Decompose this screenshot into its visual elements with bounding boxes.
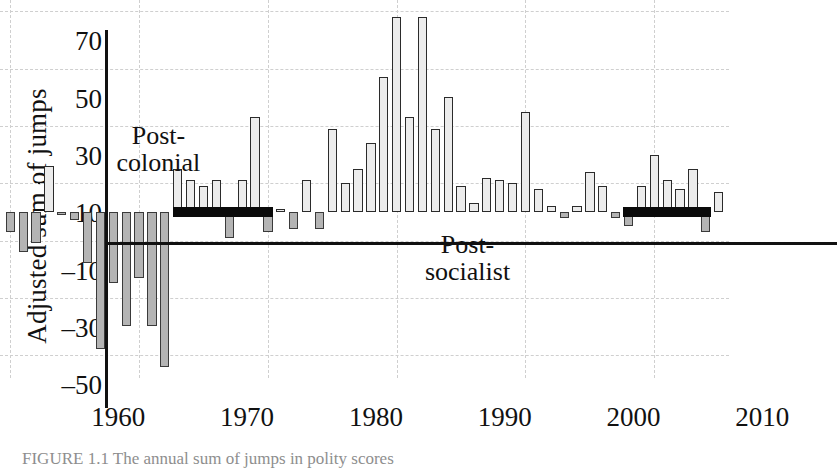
bar-2005 [585,172,594,212]
x-tick-label-1980: 1980 [331,404,421,431]
gridline-y-70 [0,11,729,12]
bar-2010 [650,155,659,212]
annotation-post-colonial: Post-colonial [48,123,268,176]
bar-2003 [560,212,569,218]
bar-1960 [6,212,15,232]
bar-1994 [444,97,453,212]
bar-2002 [547,206,556,212]
annotation-line: colonial [48,150,268,177]
bar-1985 [328,129,337,212]
bar-2006 [598,186,607,212]
bar-1967 [96,212,105,349]
bar-1986 [341,183,350,212]
bar-1997 [482,178,491,212]
bar-1990 [392,17,401,212]
gridline-x-1970 [139,0,140,378]
bar-1965 [70,212,79,221]
bar-1996 [469,203,478,212]
zero-baseline [105,242,837,245]
bar-1981 [276,209,285,212]
plot-area: Post-colonialPost-socialist [0,0,729,378]
bar-1962 [31,212,40,244]
bar-1982 [289,212,298,229]
gridline-y--50 [0,355,729,356]
post-colonial-period [173,207,273,217]
bar-1964 [57,212,66,215]
bar-1989 [379,77,388,212]
bar-1998 [495,180,504,212]
x-tick-label-2010: 2010 [717,404,807,431]
bar-1961 [19,212,28,252]
bar-1988 [366,143,375,212]
bar-1992 [418,17,427,212]
bar-2013 [688,169,697,212]
x-tick-label-1960: 1960 [73,404,163,431]
gridline-x-1980 [268,0,269,378]
bar-2007 [611,212,620,218]
gridline-y--30 [0,298,729,299]
annotation-post-socialist: Post-socialist [358,232,578,285]
bar-1966 [83,212,92,264]
bar-1984 [315,212,324,229]
gridline-x-1960 [10,0,11,378]
bar-1971 [147,212,156,327]
x-tick-label-1970: 1970 [202,404,292,431]
bar-2001 [534,189,543,212]
bar-1972 [160,212,169,367]
post-socialist-period [623,207,711,217]
bar-1993 [431,129,440,212]
bar-2015 [714,192,723,212]
x-axis-tick-labels: 196019701980199020002010 [0,404,837,450]
gridline-y-50 [0,69,729,70]
gridline-y-10 [0,183,729,184]
figure-caption: FIGURE 1.1 The annual sum of jumps in po… [0,452,837,472]
chart-figure: Adjusted sum of jumps 70503010–10–30–50 … [0,0,837,472]
x-tick-label-1990: 1990 [460,404,550,431]
figure-caption-text: FIGURE 1.1 The annual sum of jumps in po… [22,452,394,469]
bar-1983 [302,180,311,212]
annotation-line: Post- [48,123,268,150]
annotation-line: socialist [358,259,578,286]
bar-2004 [572,206,581,212]
bar-1987 [353,169,362,212]
bar-1995 [456,186,465,212]
bar-1991 [405,117,414,212]
bar-1968 [109,212,118,284]
x-tick-label-2000: 2000 [588,404,678,431]
bar-1999 [508,183,517,212]
bar-1969 [122,212,131,327]
annotation-line: Post- [358,232,578,259]
y-axis-line [105,30,108,408]
bar-2000 [521,112,530,212]
